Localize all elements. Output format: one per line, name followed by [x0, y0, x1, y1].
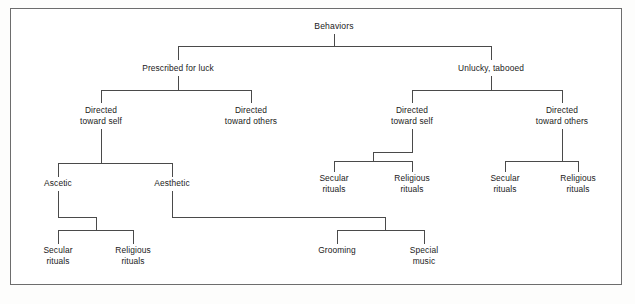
node-label-u-other-religious-l2: rituals — [566, 184, 589, 194]
node-label-prescribed: Prescribed for luck — [142, 63, 214, 73]
tree-diagram: BehaviorsPrescribed for luckUnlucky, tab… — [0, 0, 635, 304]
node-label-special-l1: Special — [410, 245, 438, 255]
node-label-u-others-l1: Directed — [546, 105, 578, 115]
node-label-asc-religious-l2: rituals — [121, 256, 144, 266]
node-label-u-other-secular-l2: rituals — [493, 184, 516, 194]
node-label-asc-secular-l1: Secular — [43, 245, 72, 255]
node-label-u-self-l1: Directed — [396, 105, 428, 115]
node-label-p-self-l1: Directed — [85, 105, 117, 115]
figure-container: BehaviorsPrescribed for luckUnlucky, tab… — [0, 0, 635, 304]
node-label-u-others-l2: toward others — [536, 116, 588, 126]
node-label-u-self-religious-l1: Religious — [394, 173, 430, 183]
node-label-grooming: Grooming — [318, 245, 356, 255]
node-label-root: Behaviors — [314, 21, 353, 31]
node-label-ascetic: Ascetic — [44, 178, 72, 188]
node-label-asc-religious-l1: Religious — [115, 245, 151, 255]
node-label-unlucky: Unlucky, tabooed — [458, 63, 524, 73]
node-label-u-other-secular-l1: Secular — [490, 173, 519, 183]
node-label-asc-secular-l2: rituals — [46, 256, 69, 266]
node-label-u-other-religious-l1: Religious — [560, 173, 596, 183]
node-label-u-self-secular-l2: rituals — [322, 184, 345, 194]
node-label-p-self-l2: toward self — [80, 116, 122, 126]
node-label-p-others-l1: Directed — [235, 105, 267, 115]
node-label-u-self-l2: toward self — [391, 116, 433, 126]
node-label-u-self-religious-l2: rituals — [400, 184, 423, 194]
node-label-aesthetic: Aesthetic — [154, 178, 190, 188]
figure-frame — [11, 9, 622, 285]
node-label-u-self-secular-l1: Secular — [319, 173, 348, 183]
node-label-special-l2: music — [413, 256, 435, 266]
node-label-p-others-l2: toward others — [225, 116, 277, 126]
